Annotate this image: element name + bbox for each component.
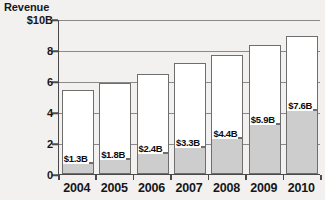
bar-value-label-2005: $1.8B bbox=[100, 149, 126, 160]
gridline-$10B bbox=[59, 20, 320, 21]
bar-2006[interactable]: $2.4B bbox=[137, 74, 169, 174]
y-tick-label-2: 2 bbox=[47, 138, 53, 150]
x-tick-mark bbox=[58, 175, 60, 180]
x-tick-label-2007: 2007 bbox=[175, 181, 202, 195]
x-tick-mark bbox=[170, 175, 172, 180]
bar-segment-upper-2007[interactable] bbox=[174, 63, 206, 147]
bar-segment-upper-2005[interactable] bbox=[99, 83, 131, 160]
bar-segment-lower-2005[interactable] bbox=[99, 159, 131, 174]
bar-2010[interactable]: $7.6B bbox=[286, 36, 318, 174]
bar-value-label-2010: $7.6B bbox=[287, 100, 313, 111]
y-tick-label-0: 0 bbox=[47, 169, 53, 181]
gridline-8 bbox=[59, 51, 320, 52]
bar-value-label-2009: $5.9B bbox=[250, 114, 276, 125]
x-tick-mark bbox=[208, 175, 210, 180]
y-tick-label-$10B: $10B bbox=[27, 14, 53, 26]
y-tick-label-6: 6 bbox=[47, 76, 53, 88]
x-tick-mark bbox=[283, 175, 285, 180]
bar-segment-lower-2006[interactable] bbox=[137, 153, 169, 174]
bar-2004[interactable]: $1.3B bbox=[62, 90, 94, 174]
y-tick-label-4: 4 bbox=[47, 107, 53, 119]
revenue-stacked-bar-chart: Revenue $1.3B$1.8B$2.4B$3.3B$4.4B$5.9B$7… bbox=[0, 0, 325, 200]
bar-segment-lower-2009[interactable] bbox=[249, 124, 281, 174]
bar-segment-upper-2008[interactable] bbox=[211, 55, 243, 138]
x-tick-mark bbox=[245, 175, 247, 180]
x-tick-label-2006: 2006 bbox=[138, 181, 165, 195]
bar-value-label-2008: $4.4B bbox=[212, 128, 238, 139]
bar-2009[interactable]: $5.9B bbox=[249, 45, 281, 174]
bar-2007[interactable]: $3.3B bbox=[174, 63, 206, 174]
bar-segment-lower-2004[interactable] bbox=[62, 163, 94, 174]
x-tick-mark bbox=[95, 175, 97, 180]
x-tick-label-2009: 2009 bbox=[250, 181, 277, 195]
bar-segment-upper-2004[interactable] bbox=[62, 90, 94, 164]
x-tick-mark bbox=[320, 175, 322, 180]
x-axis: 2004200520062007200820092010 bbox=[58, 175, 320, 200]
bar-segment-lower-2008[interactable] bbox=[211, 138, 243, 174]
bar-segment-upper-2010[interactable] bbox=[286, 36, 318, 110]
bar-2005[interactable]: $1.8B bbox=[99, 83, 131, 174]
bar-value-label-2006: $2.4B bbox=[138, 143, 164, 154]
bar-segment-upper-2009[interactable] bbox=[249, 45, 281, 124]
x-tick-mark bbox=[133, 175, 135, 180]
bar-segment-lower-2010[interactable] bbox=[286, 110, 318, 174]
bar-2008[interactable]: $4.4B bbox=[211, 55, 243, 174]
y-tick-label-8: 8 bbox=[47, 45, 53, 57]
x-tick-label-2008: 2008 bbox=[213, 181, 240, 195]
bar-value-label-2004: $1.3B bbox=[63, 153, 89, 164]
bar-value-label-2007: $3.3B bbox=[175, 137, 201, 148]
x-tick-label-2004: 2004 bbox=[63, 181, 90, 195]
y-axis-title: Revenue bbox=[4, 1, 49, 13]
x-tick-label-2010: 2010 bbox=[288, 181, 315, 195]
bar-segment-lower-2007[interactable] bbox=[174, 147, 206, 174]
bar-segment-upper-2006[interactable] bbox=[137, 74, 169, 153]
x-tick-label-2005: 2005 bbox=[101, 181, 128, 195]
plot-area: $1.3B$1.8B$2.4B$3.3B$4.4B$5.9B$7.6B bbox=[58, 20, 320, 175]
